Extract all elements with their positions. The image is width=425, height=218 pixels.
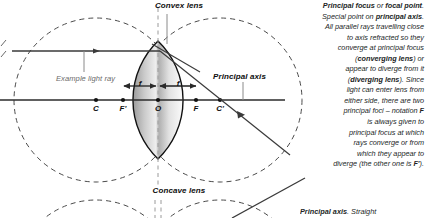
note-line: All parallel rays travelling close	[277, 22, 424, 33]
note-line: Special point on principal axis.	[277, 12, 424, 23]
note-line: rays converge or from	[277, 138, 424, 149]
note-line: (converging lens) or	[277, 54, 424, 65]
note-line: diverge (the other one is F').	[277, 159, 424, 170]
note-line: principal focus at which	[277, 128, 424, 139]
concave-construction-arc-right	[138, 200, 302, 218]
principal-axis-note: Principal axis. Straight	[300, 207, 424, 216]
principal-axis-label: Principal axis	[213, 72, 266, 81]
note-line: (diverging lens). Since	[277, 75, 424, 86]
axis-point-label-c-right: C'	[213, 104, 227, 113]
page-edge-marks	[1, 40, 6, 57]
note-line: principal foci – notation F	[277, 106, 424, 117]
axis-point-label-f: F	[189, 104, 203, 113]
incident-light-ray	[12, 48, 160, 53]
note-line: light can enter lens from	[277, 85, 424, 96]
focal-length-label-left: f	[134, 79, 146, 88]
principal-focus-note: Principal focus or focal point.Special p…	[277, 1, 424, 170]
concave-lens-title: Concave lens	[126, 186, 232, 195]
focal-length-label-right: f	[172, 79, 184, 88]
note-line: either side, there are two	[277, 96, 424, 107]
concave-centre-line	[155, 200, 161, 218]
axis-point-label-o: O	[151, 104, 165, 113]
concave-incident-ray	[232, 178, 305, 218]
note-line: to axis refracted so they	[277, 33, 424, 44]
note-line: Principal axis. Straight	[300, 207, 376, 216]
concave-construction-arc-left	[14, 200, 178, 218]
note-line: which they appear to	[277, 149, 424, 160]
axis-point-label-f-prime: F'	[116, 104, 130, 113]
optics-diagram-page: Convex lens Concave lens Principal axis …	[0, 0, 425, 218]
note-line: appear to diverge from it	[277, 64, 424, 75]
note-line: is always given to	[277, 117, 424, 128]
note-line: Principal focus or focal point.	[277, 1, 424, 12]
example-light-ray-label: Example light ray	[56, 74, 115, 83]
note-line: converge at principal focus	[277, 43, 424, 54]
convex-lens-title: Convex lens	[126, 1, 232, 10]
axis-point-label-c-left: C	[89, 104, 103, 113]
